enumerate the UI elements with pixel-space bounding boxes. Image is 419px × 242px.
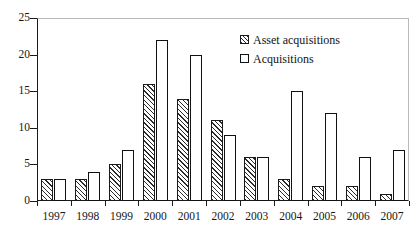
y-axis-tick: [30, 91, 37, 92]
bar: [278, 179, 290, 201]
bar: [325, 113, 337, 201]
y-axis-label: 15: [4, 85, 30, 97]
x-axis-tick: [37, 201, 38, 206]
x-axis-label: 1997: [37, 211, 71, 223]
x-axis-tick: [105, 201, 106, 206]
outline-square-icon: [240, 54, 249, 63]
x-axis-label: 2003: [240, 211, 274, 223]
chart-legend: Asset acquisitions Acquisitions: [240, 30, 410, 68]
bar: [312, 186, 324, 201]
bar: [156, 40, 168, 201]
x-axis-label: 2004: [274, 211, 308, 223]
x-axis-label: 2005: [308, 211, 342, 223]
y-axis-label: 5: [4, 158, 30, 170]
bar: [346, 186, 358, 201]
legend-label: Acquisitions: [253, 53, 314, 65]
bar: [177, 99, 189, 201]
bar: [190, 55, 202, 201]
x-axis-tick: [172, 201, 173, 206]
y-axis: 0510152025: [0, 0, 30, 242]
bar: [211, 120, 223, 201]
x-axis-label: 2006: [341, 211, 375, 223]
legend-item-acquisitions: Acquisitions: [240, 49, 410, 68]
x-axis-label: 2001: [172, 211, 206, 223]
y-axis-tick: [30, 55, 37, 56]
x-axis-label: 1999: [105, 211, 139, 223]
bar: [224, 135, 236, 201]
x-axis-label: 2000: [138, 211, 172, 223]
bar: [257, 157, 269, 201]
y-axis-label: 25: [4, 12, 30, 24]
bar: [244, 157, 256, 201]
bar: [143, 84, 155, 201]
y-axis-label: 0: [4, 195, 30, 207]
bar: [122, 150, 134, 201]
bar: [291, 91, 303, 201]
x-axis-label: 2002: [206, 211, 240, 223]
bar: [54, 179, 66, 201]
x-axis-tick: [409, 201, 410, 206]
x-axis-tick: [341, 201, 342, 206]
x-axis-tick: [375, 201, 376, 206]
x-axis-tick: [71, 201, 72, 206]
legend-label: Asset acquisitions: [253, 34, 340, 46]
y-axis-label: 20: [4, 49, 30, 61]
x-axis-label: 1998: [71, 211, 105, 223]
x-axis-tick: [274, 201, 275, 206]
bar: [41, 179, 53, 201]
hatched-square-icon: [240, 35, 249, 44]
bar: [393, 150, 405, 201]
bar: [75, 179, 87, 201]
y-axis-tick: [30, 201, 37, 202]
x-axis-tick: [240, 201, 241, 206]
x-axis-tick: [138, 201, 139, 206]
y-axis-label: 10: [4, 122, 30, 134]
x-axis-tick: [308, 201, 309, 206]
bar-chart: 0510152025 Asset acquisitions Acquisitio…: [0, 0, 419, 242]
y-axis-tick: [30, 18, 37, 19]
y-axis-tick: [30, 128, 37, 129]
x-axis-label: 2007: [375, 211, 409, 223]
x-axis-tick: [206, 201, 207, 206]
bar: [88, 172, 100, 201]
legend-item-asset-acquisitions: Asset acquisitions: [240, 30, 410, 49]
bar: [109, 164, 121, 201]
bar: [380, 194, 392, 201]
y-axis-tick: [30, 164, 37, 165]
bar: [359, 157, 371, 201]
